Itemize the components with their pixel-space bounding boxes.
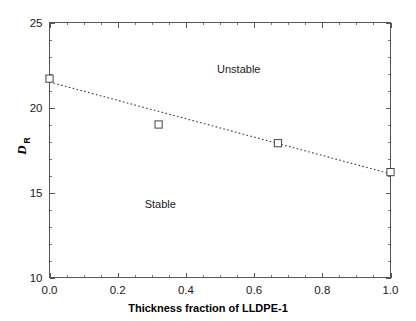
phase-diagram-chart: 0.00.20.40.60.81.0 25201510 UnstableStab…	[0, 0, 416, 321]
x-tick-label: 0.2	[110, 284, 126, 296]
y-axis-title-subscript: R	[22, 137, 32, 143]
x-tick-label: 0.4	[178, 284, 195, 296]
x-axis-title: Thickness fraction of LLDPE-1	[128, 302, 288, 314]
x-tick-label: 0.8	[314, 284, 330, 296]
data-point-marker	[155, 121, 162, 128]
y-tick-label: 20	[30, 102, 43, 114]
y-axis-title-symbol: D	[14, 145, 29, 156]
y-tick-label: 10	[30, 272, 43, 284]
y-tick-label: 25	[30, 17, 43, 29]
data-point-marker	[387, 169, 394, 176]
y-tick-label: 15	[30, 187, 43, 199]
x-tick-label: 0.6	[246, 284, 262, 296]
x-tick-label: 0.0	[42, 284, 58, 296]
region-label-stable: Stable	[145, 198, 176, 210]
data-point-marker	[274, 140, 281, 147]
x-tick-label: 1.0	[383, 284, 399, 296]
region-label-unstable: Unstable	[217, 63, 260, 75]
chart-background	[0, 0, 416, 321]
chart-container: 0.00.20.40.60.81.0 25201510 UnstableStab…	[0, 0, 416, 321]
data-point-marker	[46, 75, 53, 82]
